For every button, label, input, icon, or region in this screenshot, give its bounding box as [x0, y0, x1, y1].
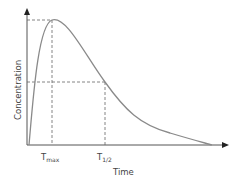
y-axis-arrow-icon [24, 8, 30, 15]
tmax-sub: max [46, 156, 59, 163]
concentration-curve [29, 20, 212, 145]
thalf-sub: 1/2 [102, 156, 112, 163]
reference-lines [27, 20, 105, 145]
pharmacokinetic-chart [0, 0, 241, 186]
tmax-label: Tmax [41, 152, 59, 163]
x-axis-arrow-icon [222, 142, 229, 148]
y-axis-label: Concentration [13, 60, 23, 120]
thalf-label: T1/2 [97, 152, 112, 163]
x-axis-label: Time [113, 167, 134, 177]
